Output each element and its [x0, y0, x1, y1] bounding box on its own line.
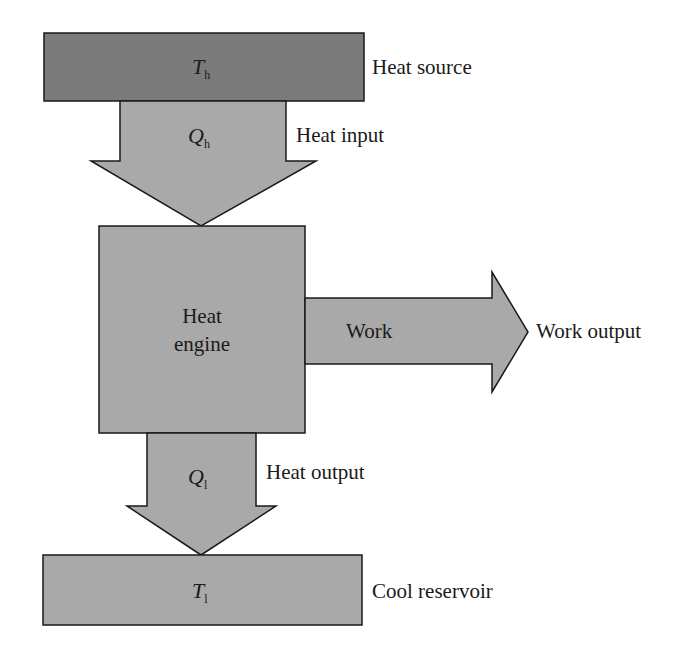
heat-output-symbol-sub: l — [204, 478, 207, 492]
heat-engine-label-line2: engine — [99, 330, 305, 358]
heat-output-symbol-main: Q — [188, 464, 204, 489]
heat-source-symbol-sub: h — [204, 68, 210, 82]
cool-reservoir-symbol: Tl — [192, 580, 208, 605]
heat-engine-label: Heat engine — [99, 302, 305, 358]
heat-source-label: Heat source — [372, 57, 472, 78]
cool-reservoir-symbol-sub: l — [204, 592, 207, 606]
cool-reservoir-label: Cool reservoir — [372, 581, 493, 602]
heat-output-arrow — [127, 433, 276, 555]
heat-source-symbol-main: T — [192, 54, 204, 79]
heat-input-label: Heat input — [296, 125, 384, 146]
heat-input-symbol-sub: h — [204, 137, 210, 151]
heat-source-symbol: Th — [192, 56, 210, 81]
heat-input-symbol-main: Q — [188, 123, 204, 148]
heat-output-label: Heat output — [266, 462, 365, 483]
heat-output-symbol: Ql — [188, 466, 207, 491]
heat-input-arrow — [91, 101, 316, 226]
cool-reservoir-symbol-main: T — [192, 578, 204, 603]
work-inner-label: Work — [346, 321, 392, 342]
heat-input-symbol: Qh — [188, 125, 210, 150]
heat-engine-label-line1: Heat — [99, 302, 305, 330]
work-arrow — [305, 272, 528, 392]
work-output-label: Work output — [536, 321, 641, 342]
